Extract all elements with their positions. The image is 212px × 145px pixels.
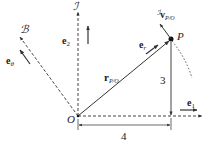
velocity-label: ℐvP/O — [157, 9, 175, 21]
horizontal-dimension-label: 4 — [121, 130, 127, 142]
er-arrow — [146, 45, 158, 54]
vertical-dimension-label: 3 — [160, 74, 166, 86]
point-p-label: P — [176, 30, 184, 42]
er-label: er — [139, 39, 146, 52]
position-vector — [78, 41, 169, 116]
etheta-label: eθ — [6, 55, 14, 68]
kinematics-diagram: ℐ ℬ e2 eθ rP/O er P ℐvP/O 3 e1 O — [0, 0, 212, 145]
trajectory-arc — [172, 41, 192, 78]
origin-label: O — [67, 113, 75, 125]
position-vector-label: rP/O — [104, 71, 119, 84]
origin-point — [77, 115, 80, 118]
velocity-vector — [160, 24, 171, 39]
e2-label: e2 — [62, 35, 70, 48]
e1-label: e1 — [187, 97, 195, 110]
inertial-frame-label: ℐ — [73, 0, 80, 12]
body-frame-label: ℬ — [20, 23, 30, 35]
body-axis — [20, 37, 78, 116]
etheta-arrow — [20, 50, 30, 64]
